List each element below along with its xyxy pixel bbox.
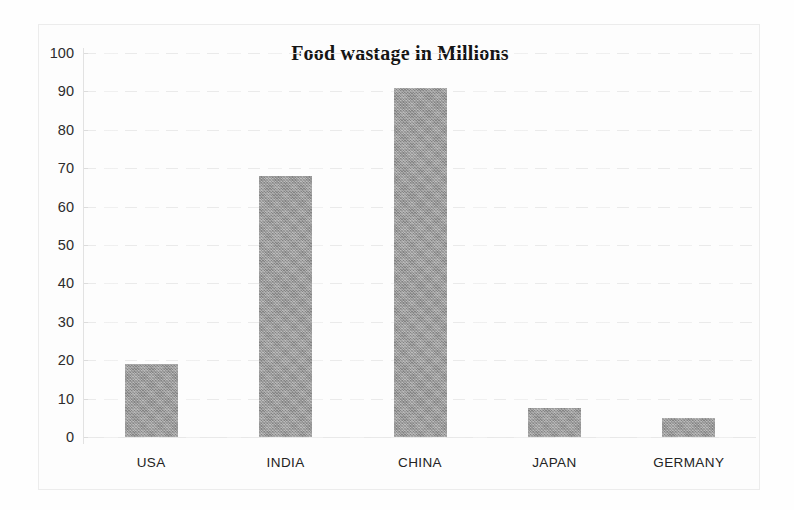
y-tick-label: 40 (30, 275, 74, 291)
y-axis-tick-labels: 0102030405060708090100 (30, 53, 74, 437)
y-tick-label: 10 (30, 391, 74, 407)
x-tick-label: INDIA (267, 455, 305, 470)
y-tick-mark (84, 437, 88, 438)
x-tick-label: USA (137, 455, 166, 470)
bars-group (84, 53, 756, 437)
y-tick-label: 70 (30, 160, 74, 176)
bar (125, 364, 178, 437)
y-tick-label: 30 (30, 314, 74, 330)
y-tick-label: 0 (30, 429, 74, 445)
bar (259, 176, 312, 437)
bar (528, 408, 581, 437)
y-tick-label: 50 (30, 237, 74, 253)
gridline (84, 437, 756, 438)
y-tick-label: 80 (30, 122, 74, 138)
bar (662, 418, 715, 437)
y-tick-label: 60 (30, 199, 74, 215)
x-tick-label: CHINA (398, 455, 442, 470)
bar-chart: Food wastage in Millions 010203040506070… (0, 0, 794, 510)
x-tick-label: JAPAN (532, 455, 577, 470)
bar (394, 88, 447, 437)
y-tick-label: 100 (30, 45, 74, 61)
y-tick-label: 90 (30, 83, 74, 99)
x-tick-label: GERMANY (653, 455, 724, 470)
y-tick-label: 20 (30, 352, 74, 368)
